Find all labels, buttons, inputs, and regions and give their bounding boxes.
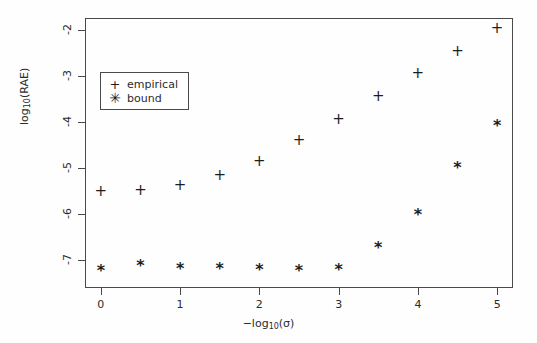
data-point-empirical: + bbox=[332, 112, 345, 127]
data-point-empirical: + bbox=[95, 184, 108, 199]
y-axis-title: log10(RAE) bbox=[18, 68, 31, 125]
y-tick-label: -4 bbox=[58, 115, 76, 128]
y-tick-mark bbox=[78, 30, 85, 31]
plot-area: +++++++++++*********** bbox=[85, 18, 513, 288]
x-tick-label: 5 bbox=[487, 298, 507, 311]
legend-item-empirical: + empirical bbox=[107, 77, 178, 91]
y-tick-mark bbox=[78, 122, 85, 123]
y-tick-label: -5 bbox=[58, 161, 76, 174]
x-tick-label: 4 bbox=[408, 298, 428, 311]
legend-label-empirical: empirical bbox=[123, 78, 178, 91]
x-tick-label: 1 bbox=[170, 298, 190, 311]
data-point-empirical: + bbox=[451, 43, 464, 58]
x-tick-mark bbox=[339, 288, 340, 295]
x-tick-label: 0 bbox=[91, 298, 111, 311]
data-point-bound: * bbox=[493, 118, 501, 134]
asterisk-marker-icon: ✳ bbox=[107, 90, 123, 106]
x-tick-mark bbox=[259, 288, 260, 295]
data-point-bound: * bbox=[97, 263, 105, 279]
data-point-empirical: + bbox=[134, 182, 147, 197]
y-tick-mark bbox=[78, 168, 85, 169]
data-point-empirical: + bbox=[491, 21, 504, 36]
data-point-bound: * bbox=[295, 263, 303, 279]
data-point-bound: * bbox=[255, 262, 263, 278]
data-point-bound: * bbox=[176, 261, 184, 277]
data-point-empirical: + bbox=[174, 178, 187, 193]
chart-legend: + empirical ✳ bound bbox=[100, 72, 189, 110]
data-point-bound: * bbox=[453, 160, 461, 176]
x-tick-label: 3 bbox=[329, 298, 349, 311]
x-axis-title-text: −log10(σ) bbox=[243, 317, 295, 330]
y-tick-label: -6 bbox=[58, 207, 76, 220]
y-tick-mark bbox=[78, 260, 85, 261]
data-point-empirical: + bbox=[293, 132, 306, 147]
data-point-empirical: + bbox=[253, 153, 266, 168]
legend-item-bound: ✳ bound bbox=[107, 91, 178, 105]
legend-label-bound: bound bbox=[123, 92, 162, 105]
y-tick-mark bbox=[78, 76, 85, 77]
y-tick-label: -2 bbox=[58, 23, 76, 36]
data-point-empirical: + bbox=[372, 89, 385, 104]
x-tick-label: 2 bbox=[249, 298, 269, 311]
x-tick-mark bbox=[101, 288, 102, 295]
data-point-empirical: + bbox=[412, 66, 425, 81]
y-tick-mark bbox=[78, 214, 85, 215]
y-tick-label: -7 bbox=[58, 253, 76, 266]
x-tick-mark bbox=[497, 288, 498, 295]
data-point-bound: * bbox=[136, 258, 144, 274]
x-tick-mark bbox=[180, 288, 181, 295]
y-tick-label: -3 bbox=[58, 69, 76, 82]
data-point-bound: * bbox=[374, 240, 382, 256]
y-axis-title-text: log10(RAE) bbox=[18, 68, 31, 125]
data-point-bound: * bbox=[334, 262, 342, 278]
chart-figure: log10(RAE) -2-3-4-5-6-7 +++++++++++*****… bbox=[0, 0, 537, 343]
data-point-bound: * bbox=[414, 207, 422, 223]
data-point-bound: * bbox=[216, 261, 224, 277]
x-tick-mark bbox=[418, 288, 419, 295]
data-point-empirical: + bbox=[213, 168, 226, 183]
x-axis-title: −log10(σ) bbox=[0, 317, 537, 330]
